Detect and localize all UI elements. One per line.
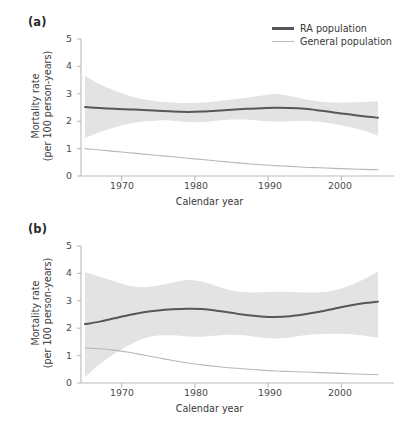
chart-panel-a: (a) Mortality rate (per 100 person-years… — [0, 0, 419, 214]
chart-panel-b: (b) Mortality rate (per 100 person-years… — [0, 207, 419, 421]
figure-two-panel-mortality-chart: (a) Mortality rate (per 100 person-years… — [0, 0, 419, 428]
plot-area-b — [0, 207, 419, 421]
plot-area-a — [0, 0, 419, 214]
